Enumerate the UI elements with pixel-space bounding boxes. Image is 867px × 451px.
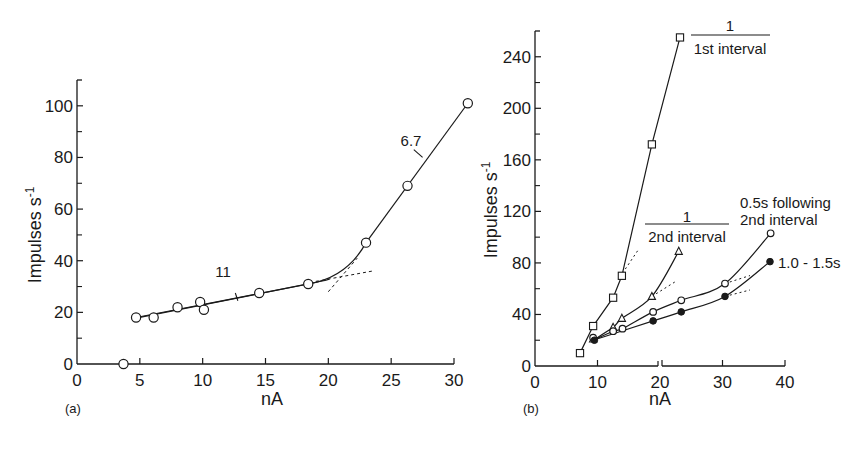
y-tick-label: 0 bbox=[64, 355, 73, 374]
arrow-slope-11 bbox=[235, 293, 238, 301]
x-tick-label: 5 bbox=[135, 371, 144, 390]
y-tick-label: 80 bbox=[54, 148, 73, 167]
series-line-2 bbox=[593, 233, 771, 340]
x-tick-label: 0 bbox=[530, 373, 539, 392]
data-point-open-circle bbox=[149, 313, 158, 322]
x-axis-title-a: nA bbox=[261, 389, 283, 409]
data-point-open-circle bbox=[403, 181, 412, 190]
y-axis-title-a: Impulses s-1 bbox=[23, 186, 45, 283]
chart-panel-a: 051015202530020406080100 nA Impulses s-1… bbox=[23, 80, 472, 416]
data-point-open-circle bbox=[610, 328, 617, 335]
x-tick-label: 0 bbox=[72, 371, 81, 390]
fit-line-slope-6-7 bbox=[366, 103, 468, 242]
data-point-open-circle bbox=[199, 305, 208, 314]
data-point-open-circle bbox=[722, 280, 729, 287]
slope-annotation-6-7: 6.7 bbox=[401, 132, 422, 149]
data-point-open-circle bbox=[173, 303, 182, 312]
x-tick-label: 15 bbox=[256, 371, 275, 390]
data-point-filled-circle bbox=[650, 318, 657, 325]
data-point-open-circle bbox=[650, 309, 657, 316]
x-tick-label: 30 bbox=[445, 371, 464, 390]
y-tick-label: 120 bbox=[503, 202, 531, 221]
legend-label-2nd-interval: 1 2nd interval bbox=[645, 208, 729, 245]
arrow-slope-6-7 bbox=[414, 150, 423, 158]
y-tick-label: 80 bbox=[512, 254, 531, 273]
data-point-open-circle bbox=[119, 359, 128, 368]
data-point-open-circle bbox=[678, 297, 685, 304]
axes-a: 051015202530020406080100 bbox=[45, 80, 464, 390]
data-point-open-square bbox=[676, 34, 683, 41]
legend-0-5s-line2: 2nd interval bbox=[740, 211, 818, 228]
y-axis-title-a-sup: -1 bbox=[23, 186, 37, 197]
data-point-filled-circle bbox=[767, 258, 774, 265]
y-axis-title-b: Impulses s-1 bbox=[479, 161, 501, 258]
data-point-open-circle bbox=[361, 238, 370, 247]
data-point-filled-circle bbox=[591, 337, 598, 344]
y-tick-label: 60 bbox=[54, 200, 73, 219]
x-tick-label: 10 bbox=[193, 371, 212, 390]
y-axis-title-a-main: Impulses s bbox=[25, 197, 45, 283]
x-tick-label: 20 bbox=[319, 371, 338, 390]
data-point-open-square bbox=[610, 294, 617, 301]
data-point-open-circle bbox=[131, 313, 140, 322]
extrapolation-dashed bbox=[316, 271, 373, 281]
data-point-open-square bbox=[590, 322, 597, 329]
panel-label-b: (b) bbox=[523, 401, 539, 416]
data-point-open-circle bbox=[304, 279, 313, 288]
y-tick-label: 40 bbox=[54, 252, 73, 271]
legend-label-0-5s: 0.5s following 2nd interval bbox=[740, 194, 831, 228]
x-axis-title-b: nA bbox=[649, 389, 671, 409]
y-tick-label: 160 bbox=[503, 151, 531, 170]
data-point-open-triangle bbox=[618, 314, 625, 321]
slope-annotation-11: 11 bbox=[215, 263, 231, 280]
extrapolation-dashed bbox=[725, 276, 750, 284]
data-point-open-circle bbox=[463, 99, 472, 108]
y-tick-label: 200 bbox=[503, 99, 531, 118]
data-point-open-square bbox=[576, 350, 583, 357]
y-tick-label: 240 bbox=[503, 48, 531, 67]
data-point-open-triangle bbox=[675, 247, 682, 254]
extrapolation-dashed bbox=[652, 281, 677, 297]
x-tick-label: 10 bbox=[588, 373, 607, 392]
panel-label-a: (a) bbox=[65, 401, 81, 416]
data-point-filled-circle bbox=[678, 309, 685, 316]
series-line-1st-interval bbox=[580, 37, 680, 353]
chart-panel-b: 01020304004080120160200240 nA Impulses s… bbox=[479, 17, 841, 416]
y-tick-label: 100 bbox=[45, 97, 73, 116]
x-tick-label: 40 bbox=[776, 373, 795, 392]
legend-label-1st-interval: 1 1st interval bbox=[691, 17, 770, 57]
data-point-open-circle bbox=[767, 230, 774, 237]
legend-1st-numerator: 1 bbox=[726, 17, 734, 34]
data-point-filled-circle bbox=[722, 293, 729, 300]
x-tick-label: 30 bbox=[713, 373, 732, 392]
legend-1-0-1-5s: 1.0 - 1.5s bbox=[778, 254, 841, 271]
extrapolation-dashed bbox=[725, 290, 750, 296]
y-axis-title-b-sup: -1 bbox=[479, 161, 493, 172]
legend-2nd-denominator: 2nd interval bbox=[648, 228, 726, 245]
legend-2nd-numerator: 1 bbox=[683, 208, 691, 225]
data-point-open-circle bbox=[619, 325, 626, 332]
y-tick-label: 40 bbox=[512, 305, 531, 324]
data-point-open-square bbox=[618, 272, 625, 279]
y-axis-title-b-main: Impulses s bbox=[481, 172, 501, 258]
figure: 051015202530020406080100 nA Impulses s-1… bbox=[0, 0, 867, 451]
data-point-open-square bbox=[648, 141, 655, 148]
y-tick-label: 0 bbox=[522, 357, 531, 376]
legend-1st-denominator: 1st interval bbox=[694, 40, 767, 57]
legend-0-5s-line1: 0.5s following bbox=[740, 194, 831, 211]
data-point-open-circle bbox=[255, 288, 264, 297]
y-tick-label: 20 bbox=[54, 303, 73, 322]
x-tick-label: 25 bbox=[382, 371, 401, 390]
